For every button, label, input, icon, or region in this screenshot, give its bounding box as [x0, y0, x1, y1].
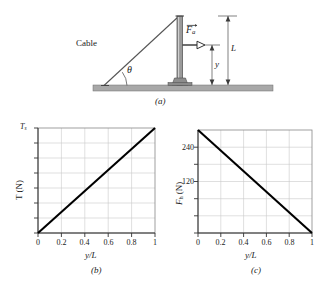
- chart-c-xtick-marks: [198, 233, 312, 237]
- chart-c-ylabel-sub: h: [178, 196, 184, 199]
- chart-c-xtick-08: 0.8: [280, 238, 299, 247]
- chart-c-xtick-1: 1: [307, 238, 317, 247]
- chart-c-xlabel: y/L: [245, 250, 257, 260]
- chart-c-ylabel-base: F: [174, 200, 184, 206]
- chart-c-xtick-02: 0.2: [211, 238, 230, 247]
- chart-c-ytick-marks: [194, 147, 198, 233]
- chart-c-ytick-120: 120: [176, 177, 194, 186]
- chart-c-xtick-04: 0.4: [234, 238, 253, 247]
- chart-c-xtick-06: 0.6: [257, 238, 276, 247]
- chart-c-ytick-240: 240: [176, 143, 194, 152]
- panel-c-caption: (c): [251, 265, 261, 275]
- chart-c-xtick-0: 0: [193, 238, 203, 247]
